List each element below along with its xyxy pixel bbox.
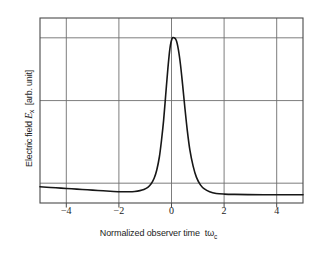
x-axis-label-text: Normalized observer time <box>100 228 200 238</box>
y-axis-symbol-subscript: x <box>28 110 35 113</box>
x-tick-label: −4 <box>51 205 81 216</box>
x-axis-symbol-subscript: c <box>214 233 217 240</box>
x-axis-label: Normalized observer time tωc <box>0 228 317 240</box>
y-axis-label: Electric field Ex [arb. unit] <box>23 43 36 193</box>
y-axis-units: [arb. unit] <box>24 70 34 105</box>
y-axis-label-text: Electric field <box>24 121 34 167</box>
grid-lines <box>40 18 303 203</box>
chart-figure: Electric field Ex [arb. unit] Normalized… <box>0 0 317 254</box>
x-tick-label: 0 <box>157 205 187 216</box>
x-tick-label: 2 <box>209 205 239 216</box>
y-axis-symbol: E <box>23 113 34 119</box>
x-tick-label: −2 <box>104 205 134 216</box>
grid-vertical-lines <box>66 18 276 203</box>
x-tick-label: 4 <box>262 205 292 216</box>
x-axis-symbol: tω <box>205 228 214 238</box>
